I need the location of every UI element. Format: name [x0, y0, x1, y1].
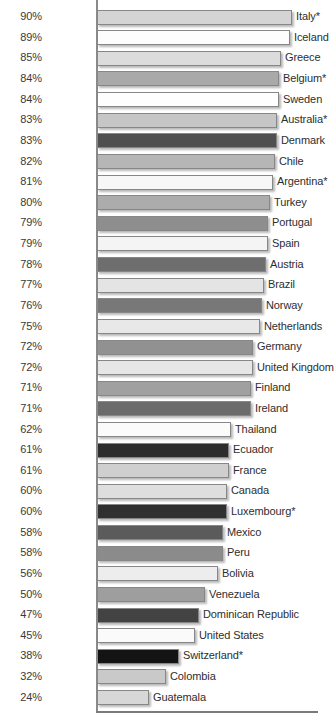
bar-fill	[97, 422, 231, 437]
bar-category-label: Bolivia	[222, 567, 254, 579]
bar-fill	[97, 71, 279, 86]
bar-category-label: Mexico	[227, 526, 261, 538]
bar-value-label: 77%	[0, 278, 42, 290]
bar-fill	[97, 443, 229, 458]
bar-category-label: Peru	[227, 546, 250, 558]
bar	[97, 216, 268, 231]
bar	[97, 690, 149, 705]
bar-category-label: Spain	[272, 237, 300, 249]
bar	[97, 154, 275, 169]
bar	[97, 649, 179, 664]
bar	[97, 443, 229, 458]
bar-row: 82%Chile	[0, 152, 332, 173]
bar-fill	[97, 51, 281, 66]
bar-fill	[97, 319, 260, 334]
bar-category-label: Venezuela	[209, 588, 259, 600]
bar-row: 84%Sweden	[0, 90, 332, 111]
bar-fill	[97, 525, 223, 540]
bar-category-label: Argentina*	[277, 175, 327, 187]
bar-row: 56%Bolivia	[0, 564, 332, 585]
bar-category-label: Denmark	[281, 134, 325, 146]
bar-value-label: 75%	[0, 320, 42, 332]
bar-value-label: 78%	[0, 258, 42, 270]
bar-row: 61%Ecuador	[0, 440, 332, 461]
bar-row: 79%Spain	[0, 234, 332, 255]
bar-row: 60%Luxembourg*	[0, 502, 332, 523]
bar	[97, 195, 270, 210]
bar-fill	[97, 566, 218, 581]
bar-row: 77%Brazil	[0, 275, 332, 296]
bar	[97, 525, 223, 540]
bar-row: 60%Canada	[0, 481, 332, 502]
bar-category-label: Ecuador	[233, 443, 273, 455]
bar-fill	[97, 257, 266, 272]
bar-fill	[97, 216, 268, 231]
bar-fill	[97, 649, 179, 664]
bar-value-label: 80%	[0, 196, 42, 208]
bar	[97, 628, 195, 643]
bar-fill	[97, 381, 251, 396]
bar-value-label: 90%	[0, 10, 42, 22]
bar-value-label: 79%	[0, 237, 42, 249]
bar-value-label: 85%	[0, 51, 42, 63]
bar	[97, 30, 290, 45]
bar-value-label: 56%	[0, 567, 42, 579]
bar-category-label: Germany	[257, 340, 302, 352]
bar-category-label: Canada	[231, 484, 269, 496]
x-axis-line	[96, 711, 318, 713]
bar-row: 32%Colombia	[0, 667, 332, 688]
bar-value-label: 60%	[0, 484, 42, 496]
bar-value-label: 84%	[0, 72, 42, 84]
bar-value-label: 89%	[0, 31, 42, 43]
bar	[97, 504, 227, 519]
bar-row: 47%Dominican Republic	[0, 605, 332, 626]
bar-fill	[97, 669, 166, 684]
bar	[97, 381, 251, 396]
bar-row: 62%Thailand	[0, 420, 332, 441]
bar	[97, 257, 266, 272]
bar-value-label: 38%	[0, 649, 42, 661]
bar-category-label: Iceland	[294, 31, 329, 43]
bar-category-label: Greece	[285, 51, 320, 63]
bar	[97, 587, 205, 602]
bar-row: 79%Portugal	[0, 213, 332, 234]
bar-value-label: 32%	[0, 670, 42, 682]
bar-fill	[97, 690, 149, 705]
bar-category-label: Finland	[255, 381, 290, 393]
bar-value-label: 62%	[0, 423, 42, 435]
bar-row: 84%Belgium*	[0, 69, 332, 90]
bar-category-label: Turkey	[274, 196, 307, 208]
bar	[97, 92, 279, 107]
bar-category-label: Dominican Republic	[203, 608, 299, 620]
bar-fill	[97, 113, 277, 128]
bar	[97, 319, 260, 334]
bar-row: 80%Turkey	[0, 193, 332, 214]
bar-category-label: Sweden	[283, 93, 322, 105]
bar-row: 72%United Kingdom	[0, 358, 332, 379]
bar-row: 83%Denmark	[0, 131, 332, 152]
bar-value-label: 71%	[0, 402, 42, 414]
bar	[97, 608, 199, 623]
bar	[97, 113, 277, 128]
bar-category-label: Italy*	[296, 10, 320, 22]
bar-fill	[97, 360, 253, 375]
bar-row: 81%Argentina*	[0, 172, 332, 193]
bar-fill	[97, 92, 279, 107]
bar-category-label: Austria	[270, 258, 304, 270]
bar-row: 83%Australia*	[0, 110, 332, 131]
bar-category-label: Luxembourg*	[231, 505, 295, 517]
bar	[97, 236, 268, 251]
bar-row: 76%Norway	[0, 296, 332, 317]
bar-value-label: 79%	[0, 216, 42, 228]
bar-category-label: Guatemala	[153, 691, 206, 703]
bar-value-label: 58%	[0, 546, 42, 558]
bar	[97, 401, 251, 416]
bar-fill	[97, 154, 275, 169]
bar-fill	[97, 463, 229, 478]
bar-category-label: United Kingdom	[257, 361, 334, 373]
bar-value-label: 58%	[0, 526, 42, 538]
bar-row: 72%Germany	[0, 337, 332, 358]
bar-fill	[97, 608, 199, 623]
bar-value-label: 83%	[0, 134, 42, 146]
